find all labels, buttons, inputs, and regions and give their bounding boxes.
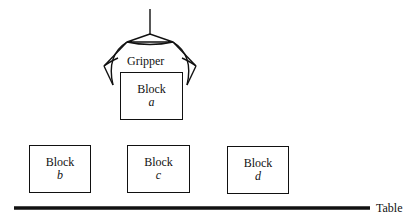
block-d: Block d: [227, 146, 289, 194]
block-a-letter: a: [121, 96, 182, 109]
table-label: Table: [376, 201, 402, 216]
block-c-letter: c: [128, 169, 189, 182]
block-b: Block b: [29, 145, 91, 193]
block-a: Block a: [120, 72, 183, 120]
block-d-letter: d: [228, 170, 288, 183]
block-b-letter: b: [30, 169, 90, 182]
gripper-label: Gripper: [127, 54, 164, 69]
block-c: Block c: [127, 145, 190, 193]
